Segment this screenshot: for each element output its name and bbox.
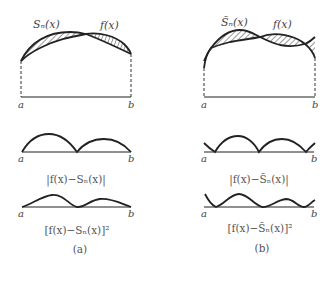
panel-a-caption: (a) [73, 243, 87, 255]
panel-b: S̃ₙ(x) f(x) a b a b |f(x)−S̃ₙ(x)| a b [f… [201, 16, 318, 254]
panel-b-bottom-plot: a b [f(x)−S̃ₙ(x)]² [201, 194, 317, 234]
abs-error-expression: |f(x)−Sₙ(x)| [46, 173, 106, 187]
curve-f-label: f(x) [99, 19, 119, 32]
abs-error-curve [22, 134, 131, 152]
b-label: b [128, 208, 134, 219]
panel-b-middle-plot: a b |f(x)−S̃ₙ(x)| [201, 136, 317, 187]
squared-error-expression: [f(x)−S̃ₙ(x)]² [227, 222, 292, 234]
panel-b-caption: (b) [255, 242, 270, 254]
curve-f-label: f(x) [272, 18, 292, 31]
squared-error-curve [22, 195, 131, 207]
panel-b-top-plot: S̃ₙ(x) f(x) a b [201, 16, 318, 110]
curve-Sn-tilde-label: S̃ₙ(x) [221, 16, 248, 29]
b-label: b [311, 153, 317, 164]
b-label: b [312, 99, 318, 110]
panel-a: Sₙ(x) f(x) a b a b |f(x)−Sₙ(x)| a b [f(x… [18, 18, 134, 255]
curve-Sn-label: Sₙ(x) [33, 18, 60, 31]
squared-error-expression: [f(x)−Sₙ(x)]² [44, 224, 109, 236]
abs-error-expression: |f(x)−S̃ₙ(x)| [229, 173, 289, 187]
abs-error-curve [204, 136, 315, 152]
b-label: b [311, 208, 317, 219]
a-label: a [201, 153, 207, 164]
panel-a-middle-plot: a b |f(x)−Sₙ(x)| [18, 134, 134, 187]
b-label: b [128, 99, 134, 110]
a-label: a [18, 99, 24, 110]
panel-a-top-plot: Sₙ(x) f(x) a b [18, 18, 134, 110]
squared-error-curve [205, 194, 315, 207]
a-label: a [18, 208, 24, 219]
b-label: b [128, 153, 134, 164]
approximation-error-diagram: Sₙ(x) f(x) a b a b |f(x)−Sₙ(x)| a b [f(x… [0, 0, 334, 288]
a-label: a [201, 208, 207, 219]
panel-a-bottom-plot: a b [f(x)−Sₙ(x)]² [18, 195, 134, 236]
a-label: a [18, 153, 24, 164]
a-label: a [201, 99, 207, 110]
